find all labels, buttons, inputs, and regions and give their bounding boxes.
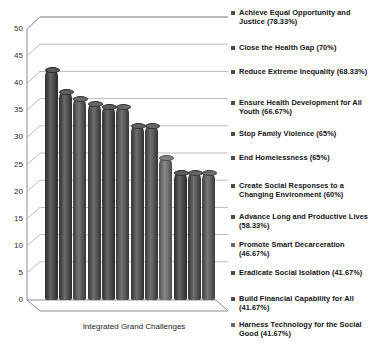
legend-item[interactable]: Advance Long and Productive Lives (58.33… [231, 212, 377, 230]
bar-slot [187, 54, 201, 300]
legend-item-label: End Homelessness (65%) [239, 153, 330, 162]
bar-body [59, 91, 72, 300]
bar-body [116, 106, 129, 300]
bar-cylinder [131, 125, 144, 300]
bar-series [44, 54, 216, 300]
legend-item-label: Close the Health Gap (70%) [239, 43, 336, 52]
bar-slot [144, 54, 158, 300]
y-tick: 15 [14, 215, 23, 223]
legend-item-label: Build Financial Capability for All (41.6… [239, 294, 377, 312]
bar-body [159, 157, 172, 300]
legend-item[interactable]: Achieve Equal Opportunity and Justice (7… [231, 8, 377, 26]
legend-item-label: Ensure Health Development for All Youth … [239, 98, 377, 116]
legend-item[interactable]: End Homelessness (65%) [231, 153, 377, 162]
bar-body [45, 69, 58, 300]
bar-cylinder [102, 106, 115, 300]
bar-cylinder [188, 172, 201, 300]
bar-body [174, 172, 187, 300]
legend-item[interactable]: Ensure Health Development for All Youth … [231, 98, 377, 116]
y-tick: 40 [14, 79, 23, 87]
bar-cylinder [159, 157, 172, 300]
bar-cylinder [59, 91, 72, 300]
bar-cylinder [145, 125, 158, 300]
bar-body [73, 98, 86, 300]
y-tick: 10 [14, 242, 23, 250]
legend-item-label: Advance Long and Productive Lives (58.33… [239, 212, 377, 230]
grand-challenges-bar-chart: 50 45 40 35 30 25 20 15 10 5 0 Integrate… [0, 0, 379, 347]
y-tick: 35 [14, 106, 23, 114]
y-tick: 20 [14, 188, 23, 196]
legend-swatch-icon [231, 271, 235, 275]
legend-swatch-icon [231, 101, 235, 105]
bar-cylinder [116, 106, 129, 300]
plot-area: 50 45 40 35 30 25 20 15 10 5 0 Integrate… [0, 0, 228, 347]
bar-slot [173, 54, 187, 300]
bar-body [88, 103, 101, 300]
legend-item-label: Achieve Equal Opportunity and Justice (7… [239, 8, 377, 26]
legend-swatch-icon [231, 132, 235, 136]
legend-swatch-icon [231, 323, 235, 327]
legend-swatch-icon [231, 297, 235, 301]
bar-slot [202, 54, 216, 300]
bar-cylinder [174, 172, 187, 300]
legend-item-label: Promote Smart Decarceration (46.67%) [239, 240, 377, 258]
bar-body [202, 172, 215, 300]
legend-item[interactable]: Eradicate Social Isolation (41.67%) [231, 268, 377, 277]
bar-body [131, 125, 144, 300]
bar-cylinder [45, 69, 58, 300]
x-axis-title: Integrated Grand Challenges [44, 322, 224, 331]
legend-item[interactable]: Build Financial Capability for All (41.6… [231, 294, 377, 312]
bar-slot [73, 54, 87, 300]
bar-cylinder [73, 98, 86, 300]
legend-item[interactable]: Reduce Extreme Inequality (68.33%) [231, 67, 377, 76]
bar-slot [44, 54, 58, 300]
legend-item[interactable]: Close the Health Gap (70%) [231, 43, 377, 52]
bar-slot [87, 54, 101, 300]
legend-item-label: Stop Family Violence (65%) [239, 129, 336, 138]
bar-cylinder [202, 172, 215, 300]
bar-slot [130, 54, 144, 300]
legend-swatch-icon [231, 11, 235, 15]
legend-item[interactable]: Stop Family Violence (65%) [231, 129, 377, 138]
bar-slot [58, 54, 72, 300]
legend-item-label: Create Social Responses to a Changing En… [239, 181, 377, 199]
legend-swatch-icon [231, 46, 235, 50]
legend-swatch-icon [231, 156, 235, 160]
legend-swatch-icon [231, 243, 235, 247]
chart-legend: Achieve Equal Opportunity and Justice (7… [231, 8, 379, 343]
bar-body [102, 106, 115, 300]
legend-swatch-icon [231, 70, 235, 74]
legend-swatch-icon [231, 184, 235, 188]
legend-item[interactable]: Harness Technology for the Social Good (… [231, 320, 377, 338]
y-tick: 5 [19, 269, 23, 277]
y-tick: 50 [14, 25, 23, 33]
legend-item[interactable]: Promote Smart Decarceration (46.67%) [231, 240, 377, 258]
bar-slot [159, 54, 173, 300]
y-tick: 0 [19, 296, 23, 304]
legend-swatch-icon [231, 215, 235, 219]
legend-item-label: Reduce Extreme Inequality (68.33%) [239, 67, 367, 76]
y-tick: 25 [14, 161, 23, 169]
bar-top-ellipse [202, 170, 217, 176]
bar-slot [101, 54, 115, 300]
bar-body [145, 125, 158, 300]
bar-cylinder [88, 103, 101, 300]
y-tick: 30 [14, 133, 23, 141]
y-tick: 45 [14, 52, 23, 60]
legend-item[interactable]: Create Social Responses to a Changing En… [231, 181, 377, 199]
legend-item-label: Eradicate Social Isolation (41.67%) [239, 268, 362, 277]
legend-item-label: Harness Technology for the Social Good (… [239, 320, 377, 338]
bar-body [188, 172, 201, 300]
y-axis-tick-labels: 50 45 40 35 30 25 20 15 10 5 0 [0, 0, 26, 347]
bar-slot [116, 54, 130, 300]
